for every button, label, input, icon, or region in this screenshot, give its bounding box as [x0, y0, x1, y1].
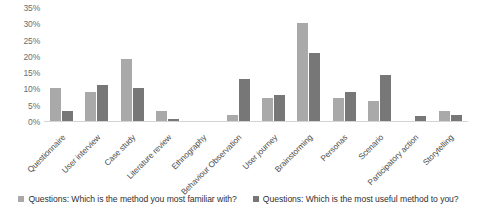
y-axis-tick: 10% [24, 84, 40, 94]
bar-group [433, 8, 468, 121]
x-axis-labels: QuestionnaireUser interviewCase studyLit… [44, 122, 468, 184]
legend-swatch-series-2 [253, 196, 259, 202]
legend-label: Questions: Which is the most useful meth… [263, 194, 459, 204]
y-axis-tick: 25% [24, 36, 40, 46]
bar-series-2[interactable] [415, 116, 426, 121]
bar-series-2[interactable] [380, 75, 391, 121]
x-axis-label-text: User journey [241, 133, 279, 171]
bar-chart: 35%30%25%20%15%10%5%0% QuestionnaireUser… [0, 0, 477, 211]
bar-series-1[interactable] [439, 111, 450, 121]
bar-group [79, 8, 114, 121]
bar-group [150, 8, 185, 121]
bar-group [221, 8, 256, 121]
bar-groups [44, 8, 468, 121]
legend-item[interactable]: Questions: Which is the most useful meth… [253, 194, 459, 204]
bar-series-2[interactable] [239, 79, 250, 121]
y-axis-tick: 30% [24, 19, 40, 29]
x-axis-label-text: Personas [319, 133, 349, 163]
bar-series-1[interactable] [262, 98, 273, 121]
bar-series-1[interactable] [121, 59, 132, 121]
bar-group [44, 8, 79, 121]
bar-series-1[interactable] [156, 111, 167, 121]
x-axis-label-text: Scenario [356, 133, 385, 162]
bar-series-2[interactable] [168, 119, 179, 121]
bar-series-2[interactable] [345, 92, 356, 121]
bar-series-2[interactable] [309, 53, 320, 121]
bar-group [327, 8, 362, 121]
bar-series-1[interactable] [333, 98, 344, 121]
bar-series-2[interactable] [451, 115, 462, 122]
bar-series-2[interactable] [274, 95, 285, 121]
y-axis-tick: 20% [24, 52, 40, 62]
y-axis: 35%30%25%20%15%10%5%0% [0, 0, 44, 130]
x-axis-label-text: Storytelling [422, 133, 456, 167]
legend-item[interactable]: Questions: Which is the method you most … [18, 194, 236, 204]
bar-group [291, 8, 326, 121]
x-axis-label-text: Case study [103, 133, 138, 168]
y-axis-tick: 5% [28, 101, 40, 111]
bar-series-2[interactable] [133, 88, 144, 121]
y-axis-tick: 0% [28, 117, 40, 127]
bar-series-2[interactable] [62, 111, 73, 121]
bar-series-1[interactable] [50, 88, 61, 121]
y-axis-tick: 35% [24, 3, 40, 13]
x-axis-label-text: Behaviour Observation [180, 133, 244, 197]
bar-group [397, 8, 432, 121]
plot-wrapper: 35%30%25%20%15%10%5%0% QuestionnaireUser… [0, 0, 477, 130]
bar-series-1[interactable] [227, 115, 238, 122]
bar-series-1[interactable] [297, 23, 308, 121]
bar-series-2[interactable] [97, 85, 108, 121]
bar-group [256, 8, 291, 121]
legend-swatch-series-1 [18, 196, 24, 202]
bar-series-1[interactable] [368, 101, 379, 121]
bar-group [115, 8, 150, 121]
bar-group [185, 8, 220, 121]
plot-area [44, 8, 468, 122]
legend-label: Questions: Which is the method you most … [28, 194, 236, 204]
y-axis-tick: 15% [24, 68, 40, 78]
chart-legend: Questions: Which is the method you most … [0, 190, 477, 208]
bar-group [362, 8, 397, 121]
bar-series-1[interactable] [85, 92, 96, 121]
